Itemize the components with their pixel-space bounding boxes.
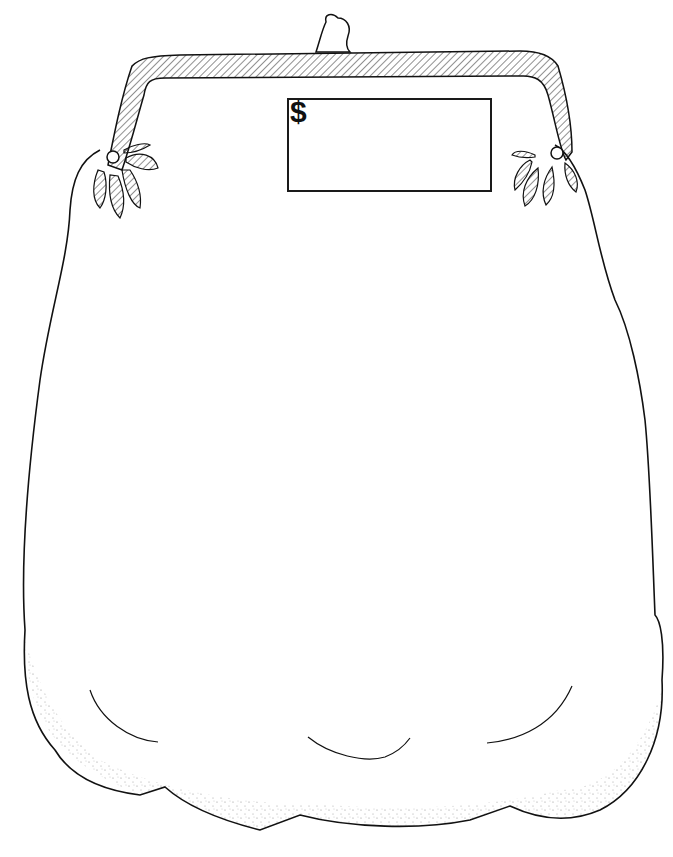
clasp-knob	[316, 15, 350, 52]
left-hinge-rivet	[107, 151, 119, 163]
dollar-sign: $	[290, 97, 307, 127]
price-tag-box: $	[287, 98, 492, 192]
purse-body-outline	[23, 145, 662, 830]
right-hinge-rivet	[551, 147, 563, 159]
